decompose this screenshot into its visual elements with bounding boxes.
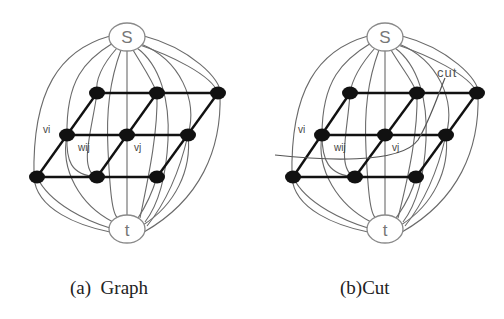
label-cut: cut xyxy=(437,65,457,80)
source-terminal-a: S xyxy=(109,23,145,51)
source-label: S xyxy=(121,28,132,47)
sink-terminal-a: t xyxy=(109,215,145,243)
label-vi: vi xyxy=(43,124,50,135)
source-terminal-b: S xyxy=(367,23,403,51)
label-vj: vj xyxy=(392,142,399,153)
caption-a: (a) Graph xyxy=(70,277,148,299)
node xyxy=(409,87,425,100)
node xyxy=(180,129,196,142)
node-vi xyxy=(314,129,330,142)
node xyxy=(469,87,485,100)
node xyxy=(210,87,226,100)
source-label: S xyxy=(379,28,390,47)
sink-label: t xyxy=(383,221,388,240)
label-wij: wij xyxy=(333,142,346,153)
node xyxy=(89,171,105,184)
graph-b: S t vi wij vj cut xyxy=(275,23,485,243)
node xyxy=(149,87,165,100)
node xyxy=(408,171,424,184)
node-vi xyxy=(59,129,75,142)
label-vj: vj xyxy=(134,142,141,153)
sink-terminal-b: t xyxy=(367,215,403,243)
caption-b: (b)Cut xyxy=(340,277,390,299)
node xyxy=(29,171,45,184)
node xyxy=(342,87,358,100)
node xyxy=(347,171,363,184)
node-vj xyxy=(377,129,393,142)
node xyxy=(149,171,165,184)
diagram-canvas: S t vi wij vj xyxy=(0,0,504,319)
sink-label: t xyxy=(125,221,130,240)
graph-a: S t vi wij vj xyxy=(29,23,226,243)
node xyxy=(285,171,301,184)
label-wij: wij xyxy=(77,142,90,153)
node xyxy=(89,87,105,100)
label-vi: vi xyxy=(298,124,305,135)
node xyxy=(438,129,454,142)
node-vj xyxy=(119,129,135,142)
